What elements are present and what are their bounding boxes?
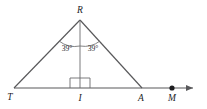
angle-label-right: 39° bbox=[88, 44, 99, 53]
vertex-label-a: A bbox=[137, 93, 144, 103]
vertex-label-i: I bbox=[77, 93, 82, 103]
geometry-canvas: 39° 39° R T I A M bbox=[0, 0, 207, 109]
geometry-figure: 39° 39° R T I A M bbox=[0, 0, 207, 109]
vertex-label-r: R bbox=[76, 5, 83, 15]
vertex-label-m: M bbox=[167, 93, 177, 103]
point-marker-m bbox=[169, 85, 174, 90]
right-angle-mark-right bbox=[80, 78, 90, 88]
right-angle-mark-left bbox=[70, 78, 80, 88]
ray-arrow-icon bbox=[186, 85, 193, 91]
vertex-label-t: T bbox=[7, 92, 13, 102]
angle-label-left: 39° bbox=[62, 44, 73, 53]
